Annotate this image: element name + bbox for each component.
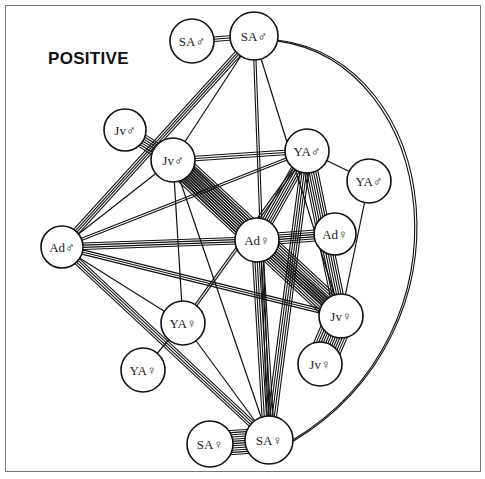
node-label: Jv♂ bbox=[114, 123, 135, 138]
node-jv_m2: Jv♂ bbox=[151, 138, 195, 182]
node-label: SA♀ bbox=[197, 437, 223, 452]
node-label: YA♀ bbox=[169, 316, 196, 331]
node-ya_f1: YA♀ bbox=[161, 301, 205, 345]
node-sa_f2: SA♀ bbox=[245, 416, 293, 464]
node-label: SA♂ bbox=[179, 34, 205, 49]
node-ad_m: Ad♂ bbox=[41, 226, 83, 268]
node-layer: SA♂SA♂Jv♂Jv♂YA♂YA♂Ad♂Ad♀Ad♀Jv♀Jv♀YA♀YA♀S… bbox=[41, 12, 391, 467]
node-label: Ad♀ bbox=[322, 227, 348, 242]
edge-ad_f1-sa_f2 bbox=[252, 240, 275, 441]
node-jv_m1: Jv♂ bbox=[104, 109, 146, 151]
node-ya_m2: YA♂ bbox=[347, 159, 391, 203]
node-jv_f1: Jv♀ bbox=[319, 294, 363, 338]
node-label: SA♂ bbox=[241, 29, 267, 44]
node-sa_f1: SA♀ bbox=[187, 421, 233, 467]
node-ad_f2: Ad♀ bbox=[314, 213, 356, 255]
node-sa_m1: SA♂ bbox=[170, 19, 214, 63]
node-label: Jv♂ bbox=[162, 153, 183, 168]
node-label: YA♂ bbox=[293, 144, 320, 159]
node-label: SA♀ bbox=[256, 433, 282, 448]
node-ya_m1: YA♂ bbox=[285, 129, 329, 173]
network-diagram: SA♂SA♂Jv♂Jv♂YA♂YA♂Ad♂Ad♀Ad♀Jv♀Jv♀YA♀YA♀S… bbox=[0, 0, 485, 479]
node-label: Jv♀ bbox=[330, 309, 351, 324]
node-jv_f2: Jv♀ bbox=[298, 342, 342, 386]
edge-ad_m-ad_f1 bbox=[62, 237, 257, 251]
node-label: Ad♂ bbox=[49, 240, 75, 255]
node-ad_f1: Ad♀ bbox=[235, 218, 279, 262]
node-sa_m2: SA♂ bbox=[230, 12, 278, 60]
node-label: Ad♀ bbox=[244, 233, 270, 248]
node-label: YA♀ bbox=[129, 363, 156, 378]
node-label: Jv♀ bbox=[309, 357, 330, 372]
node-ya_f2: YA♀ bbox=[121, 348, 165, 392]
node-label: YA♂ bbox=[355, 174, 382, 189]
